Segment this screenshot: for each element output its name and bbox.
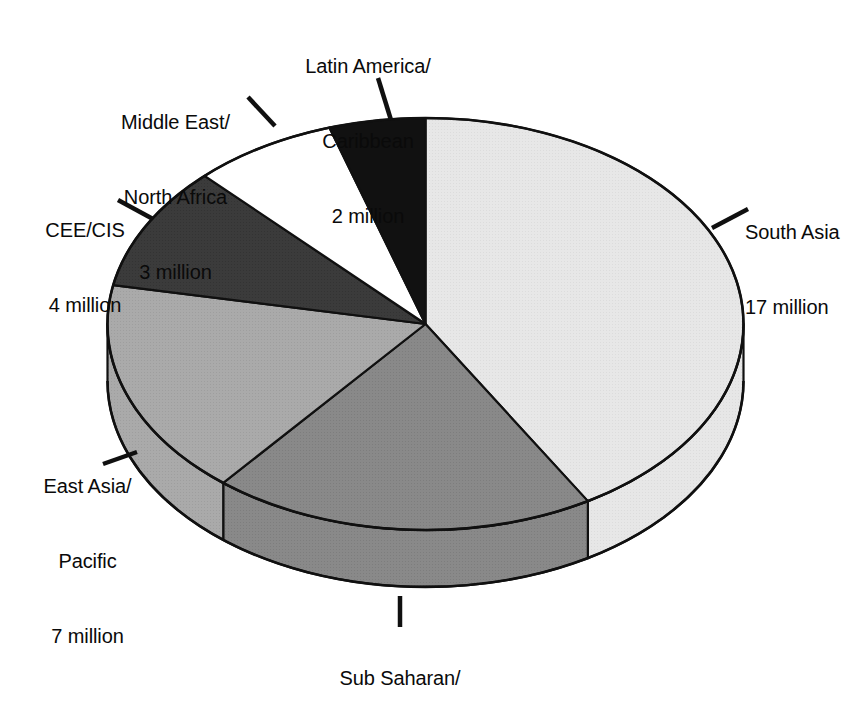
slice-label-cee-cis: CEE/CIS 4 million <box>0 168 170 368</box>
leader-line-south-asia <box>712 209 748 228</box>
slice-label-line: Sub Saharan/ <box>275 666 525 691</box>
slice-label-line: South Asia <box>745 220 861 245</box>
slice-label-value: 4 million <box>0 293 170 318</box>
slice-label-line: East Asia/ <box>0 474 175 499</box>
slice-label-line: Middle East/ <box>68 110 283 135</box>
slice-label-value: 17 million <box>745 295 861 320</box>
slice-label-sub-saharan-africa: Sub Saharan/ Africa 8 million <box>275 616 525 703</box>
slice-label-value: 7 million <box>0 624 175 649</box>
slice-label-line: Pacific <box>0 549 175 574</box>
slice-label-east-asia-pacific: East Asia/ Pacific 7 million <box>0 424 175 699</box>
slice-label-south-asia: South Asia 17 million <box>745 170 861 370</box>
pie-chart-figure: South Asia — 17 millionSub Saharan/ Afri… <box>0 0 861 703</box>
slice-label-line: CEE/CIS <box>0 218 170 243</box>
